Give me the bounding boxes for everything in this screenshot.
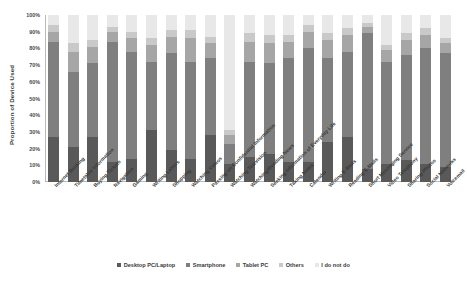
legend-swatch — [117, 263, 121, 267]
legend-label: Others — [286, 262, 304, 268]
bar-segment — [87, 15, 98, 40]
bar-column[interactable] — [48, 15, 59, 182]
bar-segment — [322, 33, 333, 40]
bar-segment — [362, 33, 373, 168]
bar-column[interactable] — [440, 15, 451, 182]
bar-segment — [440, 15, 451, 38]
bar-segment — [87, 40, 98, 47]
bar-column[interactable] — [126, 15, 137, 182]
x-axis-tick-wrap: Writing E-Mails — [322, 183, 333, 245]
bar-column[interactable] — [322, 15, 333, 182]
bar-segment — [420, 28, 431, 35]
bar-segment — [401, 15, 412, 33]
bar-segment — [68, 72, 79, 147]
bar-segment — [264, 35, 275, 43]
bar-segment — [303, 25, 314, 32]
bar-segment — [107, 32, 118, 42]
bar-segment — [244, 15, 255, 33]
bar-segment — [322, 40, 333, 58]
x-axis-tick-wrap: Voicemail — [440, 183, 451, 245]
y-axis-tick: 10% — [29, 162, 40, 168]
legend-item[interactable]: Smartphone — [186, 262, 225, 268]
bar-column[interactable] — [87, 15, 98, 182]
bar-segment — [126, 52, 137, 159]
bar-segment — [185, 38, 196, 61]
bar-segment — [205, 15, 216, 37]
legend-item[interactable]: Tablet PC — [236, 262, 268, 268]
bar-column[interactable] — [420, 15, 431, 182]
x-axis-tick-wrap: Short Messaging Service — [362, 183, 373, 245]
bar-column[interactable] — [381, 15, 392, 182]
bar-segment — [264, 63, 275, 153]
bar-column[interactable] — [362, 15, 373, 182]
legend-item[interactable]: Desktop PC/Laptop — [117, 262, 175, 268]
bar-column[interactable] — [166, 15, 177, 182]
bar-segment — [68, 15, 79, 43]
bar-segment — [440, 43, 451, 53]
bar-segment — [48, 32, 59, 42]
bar-column[interactable] — [283, 15, 294, 182]
x-axis-tick-wrap: Navigation — [107, 183, 118, 245]
bar-column[interactable] — [68, 15, 79, 182]
bar-column[interactable] — [185, 15, 196, 182]
bar-segment — [185, 30, 196, 38]
y-axis-tick: 70% — [29, 62, 40, 68]
bar-segment — [381, 15, 392, 45]
x-axis-tick-wrap: Timetable Information — [68, 183, 79, 245]
x-axis-tick-wrap: Calendar — [303, 183, 314, 245]
bar-segment — [303, 15, 314, 25]
bar-segment — [185, 15, 196, 30]
bar-segment — [401, 33, 412, 40]
bar-segment — [283, 15, 294, 35]
x-axis-tick-wrap: Watching/Reading News — [244, 183, 255, 245]
y-axis-tick: 80% — [29, 45, 40, 51]
x-axis-tick-wrap: Video Telephony — [381, 183, 392, 245]
x-axis-tick-wrap: Watching Videos — [185, 183, 196, 245]
bar-segment — [68, 43, 79, 51]
legend-label: Tablet PC — [243, 262, 268, 268]
bar-segment — [48, 42, 59, 137]
bar-segment — [107, 15, 118, 27]
x-axis-tick-labels: Internet BankingTimetable InformationBuy… — [46, 183, 453, 245]
bar-column[interactable] — [224, 15, 235, 182]
legend-swatch — [315, 263, 319, 267]
bar-segment — [146, 62, 157, 130]
bar-segment — [440, 53, 451, 167]
bar-segment — [48, 25, 59, 32]
bar-segment — [244, 33, 255, 41]
bar-segment — [381, 62, 392, 164]
bar-segment — [283, 42, 294, 59]
bar-segment — [48, 137, 59, 182]
bar-column[interactable] — [244, 15, 255, 182]
x-axis-tick-wrap: Passing on Confidential Information — [205, 183, 216, 245]
bar-segment — [303, 32, 314, 49]
legend-label: Smartphone — [193, 262, 226, 268]
bar-segment — [205, 58, 216, 135]
bar-segment — [126, 38, 137, 51]
bar-segment — [224, 135, 235, 143]
chart-legend: Desktop PC/LaptopSmartphoneTablet PCOthe… — [0, 262, 467, 268]
x-axis-tick-wrap: Internet Banking — [48, 183, 59, 245]
bar-segment — [342, 52, 353, 137]
x-axis-tick-wrap: Social Networks — [420, 183, 431, 245]
y-axis-tick: 50% — [29, 96, 40, 102]
bar-column[interactable] — [342, 15, 353, 182]
bar-segment — [264, 15, 275, 35]
bar-segment — [322, 15, 333, 33]
x-axis-tick-wrap: Gaming — [126, 183, 137, 245]
x-axis-tick-wrap: Writing Letters — [146, 183, 157, 245]
bar-column[interactable] — [264, 15, 275, 182]
bar-segment — [244, 42, 255, 62]
bar-segment — [146, 45, 157, 62]
bar-segment — [126, 32, 137, 39]
bar-column[interactable] — [146, 15, 157, 182]
bar-segment — [342, 15, 353, 28]
bar-segment — [166, 15, 177, 30]
bar-column[interactable] — [205, 15, 216, 182]
bar-segment — [48, 15, 59, 25]
bar-segment — [362, 15, 373, 23]
legend-item[interactable]: I do not do — [315, 262, 350, 268]
y-axis-tick-labels: 100%90%80%70%60%50%40%30%20%10%0% — [0, 15, 43, 182]
legend-item[interactable]: Others — [279, 262, 304, 268]
bar-segment — [107, 42, 118, 162]
